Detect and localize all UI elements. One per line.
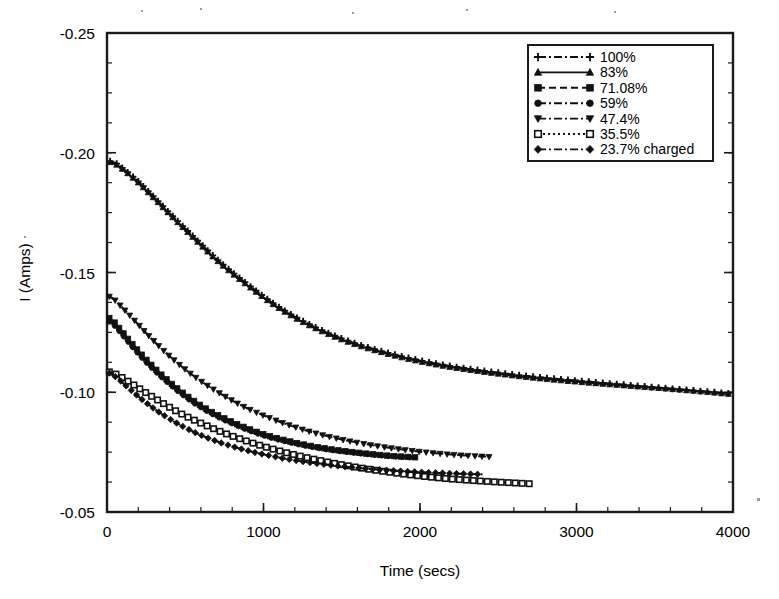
legend-group: 100%83%71.08%59%47.4%35.5%23.7% charged: [528, 45, 713, 161]
marker-circle: [126, 339, 131, 344]
scan-artifact: [352, 12, 354, 14]
scan-artifact: [141, 10, 143, 12]
marker-triangle-down: [210, 387, 216, 392]
marker-square-open: [485, 479, 490, 484]
marker-circle: [198, 405, 203, 410]
marker-circle: [210, 412, 215, 417]
chart-svg: 01000200030004000-0.25-0.20-0.15-0.10-0.…: [0, 0, 779, 599]
marker-diamond: [467, 471, 473, 477]
marker-circle: [323, 447, 328, 452]
y-tick-label: -0.10: [60, 384, 96, 401]
marker-circle: [192, 401, 197, 406]
marker-square-open: [179, 411, 184, 416]
marker-square-open: [137, 386, 142, 391]
scan-artifact: [757, 498, 760, 501]
marker-circle: [407, 455, 412, 460]
marker-square-open: [264, 444, 269, 449]
marker-circle: [344, 449, 349, 454]
marker-circle: [303, 443, 308, 448]
marker-circle: [296, 442, 301, 447]
marker-square-open: [257, 442, 262, 447]
marker-triangle-down: [293, 425, 299, 430]
marker-circle: [275, 437, 280, 442]
marker-triangle-down: [136, 323, 142, 328]
marker-diamond: [186, 426, 192, 432]
marker-circle: [140, 355, 145, 360]
marker-square-open: [291, 452, 296, 457]
marker-square-open: [185, 414, 190, 419]
marker-circle: [330, 448, 335, 453]
marker-square-filled: [535, 85, 542, 92]
marker-circle: [372, 452, 377, 457]
marker-square-open: [436, 475, 441, 480]
marker-circle: [149, 365, 154, 370]
marker-diamond: [205, 435, 211, 441]
legend-label: 71.08%: [600, 80, 647, 96]
marker-square-open: [284, 450, 289, 455]
legend-label: 47.4%: [600, 111, 640, 127]
marker-square-open: [143, 390, 148, 395]
marker-circle: [159, 375, 164, 380]
x-tick-label: 2000: [403, 523, 438, 540]
marker-diamond: [212, 437, 218, 443]
marker-square-open: [270, 446, 275, 451]
marker-circle: [229, 421, 234, 426]
marker-triangle-down: [254, 410, 260, 415]
marker-triangle-down: [375, 444, 381, 449]
marker-triangle-down: [193, 375, 199, 380]
marker-square-open: [198, 420, 203, 425]
marker-circle: [242, 426, 247, 431]
marker-triangle-down: [247, 407, 253, 412]
marker-square-open: [587, 131, 594, 138]
series-2: [107, 315, 418, 460]
marker-diamond: [266, 452, 272, 458]
marker-circle: [386, 453, 391, 458]
marker-square-open: [457, 477, 462, 482]
marker-circle: [269, 435, 274, 440]
marker-circle: [393, 454, 398, 459]
marker-square-open: [131, 382, 136, 387]
x-tick-label: 1000: [246, 523, 281, 540]
marker-circle: [170, 384, 175, 389]
marker-circle: [351, 450, 356, 455]
marker-square-open: [499, 480, 504, 485]
series-6: [106, 370, 482, 478]
legend-label: 59%: [600, 95, 628, 111]
marker-circle: [282, 439, 287, 444]
marker-circle: [587, 100, 594, 107]
marker-diamond: [272, 454, 278, 460]
marker-triangle-down: [472, 454, 478, 459]
marker-diamond: [225, 442, 231, 448]
marker-square-open: [535, 131, 542, 138]
scan-artifact: [200, 8, 202, 10]
marker-circle: [181, 393, 186, 398]
marker-circle: [289, 440, 294, 445]
marker-square-open: [173, 408, 178, 413]
marker-diamond: [232, 444, 238, 450]
marker-circle: [135, 350, 140, 355]
marker-circle: [337, 448, 342, 453]
marker-circle: [165, 379, 170, 384]
marker-square-open: [230, 434, 235, 439]
marker-square-open: [192, 417, 197, 422]
marker-circle: [187, 397, 192, 402]
marker-circle: [310, 444, 315, 449]
marker-square-open: [167, 405, 172, 410]
marker-circle: [107, 319, 112, 324]
marker-square-open: [443, 476, 448, 481]
y-tick-label: -0.20: [60, 145, 96, 162]
series-curves-group: [106, 158, 731, 487]
marker-triangle-down: [266, 416, 272, 421]
marker-triangle-down: [313, 431, 319, 436]
marker-square-open: [277, 448, 282, 453]
figure-canvas: 01000200030004000-0.25-0.20-0.15-0.10-0.…: [0, 0, 779, 599]
marker-circle: [112, 323, 117, 328]
marker-circle: [379, 453, 384, 458]
marker-triangle-down: [122, 308, 128, 313]
marker-diamond: [460, 471, 466, 477]
legend-label: 83%: [600, 64, 628, 80]
marker-circle: [130, 345, 135, 350]
marker-square-filled: [587, 85, 594, 92]
scan-artifact: [614, 11, 616, 13]
marker-circle: [223, 418, 228, 423]
